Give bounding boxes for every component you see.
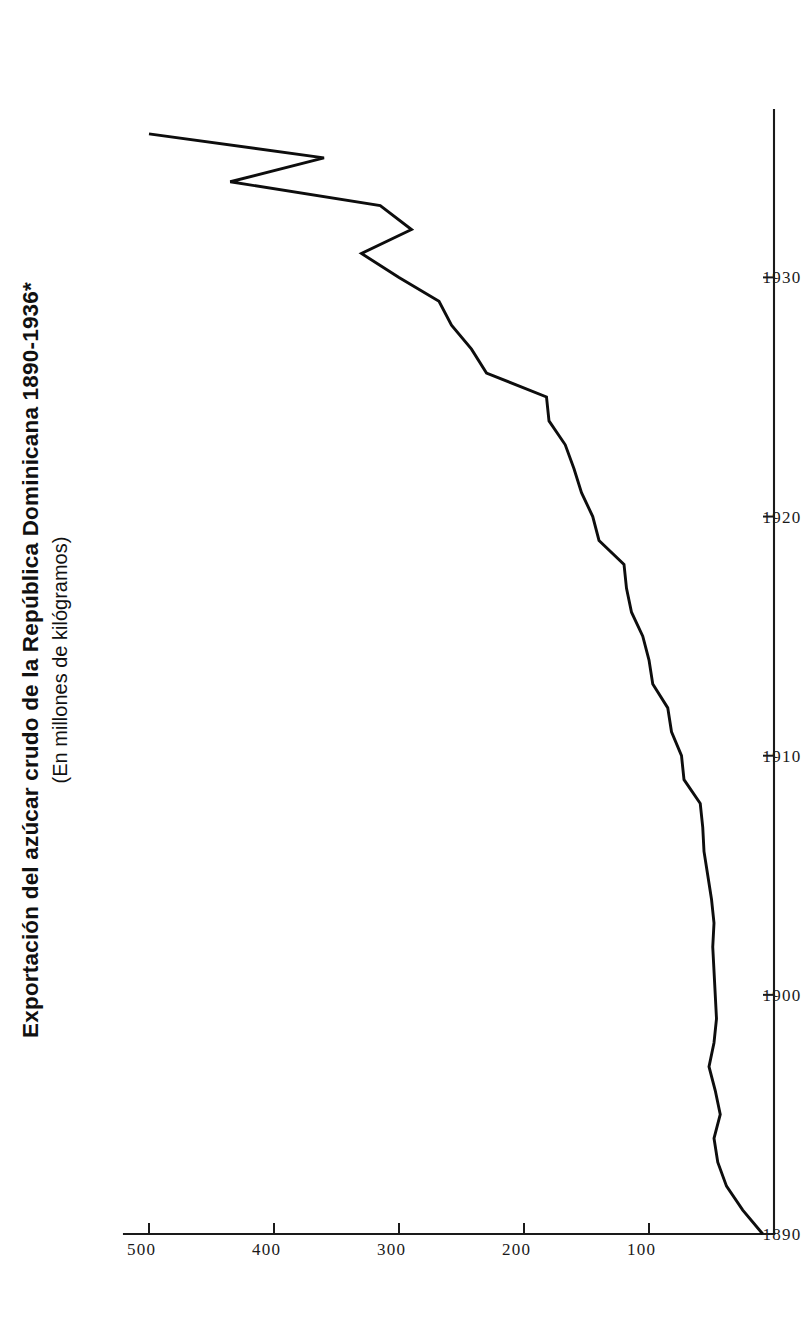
y-axis-tick-label: 400	[252, 1240, 281, 1260]
x-axis-tick-label: 1930	[763, 268, 802, 288]
data-line-sugar-exports	[149, 134, 763, 1234]
axes-group	[124, 110, 774, 1234]
y-axis-tick-label: 300	[377, 1240, 406, 1260]
y-axis-tick-label: 100	[627, 1240, 656, 1260]
chart-subtitle: (En millones de kilógramos)	[48, 0, 72, 1320]
x-axis-tick-label: 1920	[763, 508, 802, 528]
x-axis-tick-label: 1900	[763, 986, 802, 1006]
x-axis-tick-label: 1890	[763, 1225, 802, 1245]
y-axis-tick-label: 200	[502, 1240, 531, 1260]
y-axis-tick-label: 500	[127, 1240, 156, 1260]
chart-canvas	[118, 110, 774, 1234]
rotated-figure: Exportación del azúcar crudo de la Repúb…	[0, 0, 806, 1320]
y-axis-ticks	[149, 1223, 649, 1234]
plot-area: 18901900191019201930 100200300400500	[118, 110, 774, 1234]
page-canvas: Exportación del azúcar crudo de la Repúb…	[0, 0, 806, 1320]
title-block: Exportación del azúcar crudo de la Repúb…	[18, 0, 72, 1320]
x-axis-tick-label: 1910	[763, 747, 802, 767]
page-title: Exportación del azúcar crudo de la Repúb…	[18, 0, 45, 1320]
